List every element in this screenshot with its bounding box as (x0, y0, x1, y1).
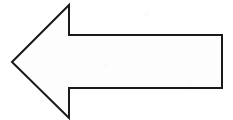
left-arrow-shape (12, 5, 222, 118)
arrow-canvas: Left-pointing arrow (0, 0, 233, 120)
left-arrow-graphic: Left-pointing arrow (0, 0, 233, 120)
